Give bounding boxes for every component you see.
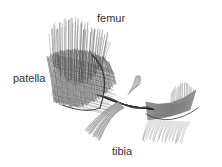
femur-label: femur [97,13,125,24]
right-up-fiber [173,89,174,104]
patella-fiber-bundle [47,49,116,116]
tibia-left-fiber-bundle [85,102,124,141]
right-up-fiber [172,92,173,104]
right-up-fiber [175,87,176,104]
patella-label: patella [13,73,45,84]
tibia-label: tibia [112,146,132,157]
right-up-fiber [171,94,172,105]
right-up-fiber [174,90,175,104]
knee-fiber-figure: femur patella tibia [0,0,222,167]
right-fiber-bundle [143,82,198,144]
right-up-fiber [178,86,179,103]
